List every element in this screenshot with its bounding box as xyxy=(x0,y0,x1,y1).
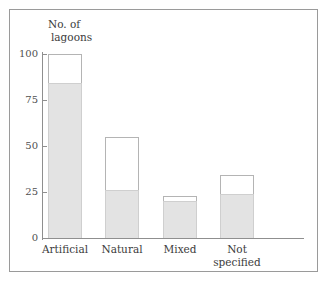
bar-shaded[interactable] xyxy=(220,194,254,238)
x-category-label: Notspecified xyxy=(192,243,282,268)
x-category-label-line1: Not xyxy=(192,243,282,256)
bar-shaded[interactable] xyxy=(48,83,82,238)
y-axis-title: No. of lagoons xyxy=(48,18,92,43)
bar-shaded[interactable] xyxy=(105,190,139,238)
x-axis-line xyxy=(42,238,304,239)
y-tick-label: 75 xyxy=(0,95,38,105)
bar-shaded[interactable] xyxy=(163,201,197,238)
y-axis-title-line1: No. of xyxy=(48,18,92,31)
y-tick-label: 50 xyxy=(0,141,38,151)
y-tick-label: 100 xyxy=(0,49,38,59)
y-axis-title-line2: lagoons xyxy=(48,31,92,44)
y-tick-mark xyxy=(43,238,47,239)
y-tick-label: 25 xyxy=(0,187,38,197)
chart-figure: No. of lagoons 0255075100 ArtificialNatu… xyxy=(0,0,327,282)
x-category-label-line2: specified xyxy=(192,256,282,269)
plot-area xyxy=(42,54,304,238)
y-tick-label: 0 xyxy=(0,233,38,243)
